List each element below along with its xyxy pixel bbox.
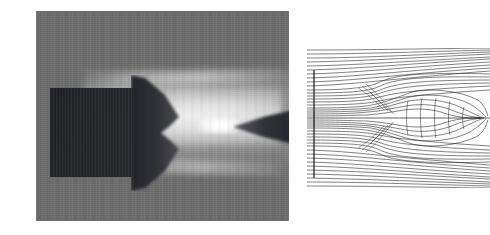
downstream-body-wedge	[233, 106, 289, 148]
blunt-body	[50, 88, 134, 177]
streamline-svg	[300, 48, 490, 188]
flowfield-contour-panel	[36, 11, 289, 221]
streamline-trace-panel	[300, 48, 490, 188]
cfd-figure	[0, 0, 490, 235]
body-wake-wedge	[131, 75, 203, 191]
